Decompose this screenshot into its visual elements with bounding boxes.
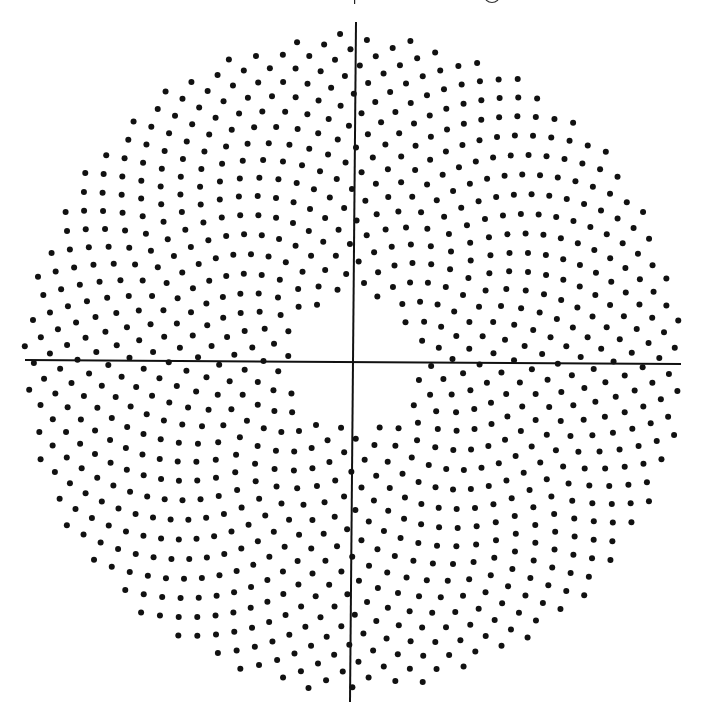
spiral-dot	[195, 441, 201, 447]
spiral-dot	[49, 250, 55, 256]
spiral-dot	[649, 315, 655, 321]
spiral-dot	[328, 85, 334, 91]
spiral-dot	[372, 99, 378, 105]
spiral-dot	[332, 57, 338, 63]
spiral-dot	[216, 362, 222, 368]
spiral-dot	[602, 379, 608, 385]
spiral-dot	[145, 573, 151, 579]
spiral-dot	[63, 429, 69, 435]
spiral-dot	[443, 106, 449, 112]
spiral-dot	[484, 380, 490, 386]
spiral-dot	[472, 649, 478, 655]
spiral-dot	[474, 523, 480, 529]
spiral-dot	[570, 402, 576, 408]
spiral-dot	[625, 482, 631, 488]
spiral-dot	[357, 63, 363, 69]
spiral-dot	[466, 576, 472, 582]
spiral-dot	[537, 310, 543, 316]
spiral-dot	[593, 270, 599, 276]
spiral-dot	[527, 487, 533, 493]
spiral-dot	[529, 191, 535, 197]
spiral-dot	[488, 572, 494, 578]
spiral-dot	[140, 431, 146, 437]
spiral-dot	[533, 617, 539, 623]
spiral-dot	[403, 81, 409, 87]
spiral-dot	[651, 289, 657, 295]
spiral-dot	[260, 157, 266, 163]
spiral-dot	[179, 422, 185, 428]
spiral-dot	[159, 594, 165, 600]
spiral-dot	[249, 625, 255, 631]
spiral-dot	[398, 179, 404, 185]
spiral-dot	[133, 511, 139, 517]
spiral-dot	[71, 264, 77, 270]
spiral-dot	[275, 368, 281, 374]
spiral-dot	[361, 280, 367, 286]
spiral-dot	[122, 228, 128, 234]
spiral-dot	[661, 329, 667, 335]
spiral-dot	[65, 303, 71, 309]
spiral-dot	[640, 461, 646, 467]
spiral-dot	[215, 72, 221, 78]
spiral-dot	[607, 302, 613, 308]
spiral-dot	[352, 612, 358, 618]
spiral-dot	[466, 346, 472, 352]
spiral-dot	[273, 124, 279, 130]
spiral-dot	[338, 425, 344, 431]
spiral-dot	[231, 629, 237, 635]
spiral-dot	[298, 668, 304, 674]
spiral-dot	[373, 53, 379, 59]
spiral-dot	[650, 262, 656, 268]
spiral-dot	[196, 595, 202, 601]
spiral-dot	[123, 445, 129, 451]
spiral-dot	[52, 469, 58, 475]
spiral-dot	[632, 387, 638, 393]
spiral-dot	[127, 569, 133, 575]
spiral-dot	[544, 476, 550, 482]
spiral-dot	[194, 614, 200, 620]
spiral-dot	[356, 259, 362, 265]
spiral-dot	[57, 366, 63, 372]
spiral-dot	[563, 343, 569, 349]
spiral-dot	[148, 248, 154, 254]
spiral-dot	[610, 430, 616, 436]
spiral-dot	[269, 93, 275, 99]
spiral-dot	[321, 531, 327, 537]
spiral-dot	[572, 178, 578, 184]
spiral-dot	[409, 260, 415, 266]
spiral-dot	[223, 233, 229, 239]
spiral-dot	[364, 599, 370, 605]
spiral-dot	[132, 262, 138, 268]
spiral-dot	[326, 582, 332, 588]
spiral-dot	[193, 459, 199, 465]
spiral-dot	[402, 494, 408, 500]
spiral-dot	[217, 196, 223, 202]
spiral-dot	[418, 209, 424, 215]
spiral-dot	[362, 198, 368, 204]
spiral-dot	[615, 174, 621, 180]
spiral-dot	[575, 240, 581, 246]
spiral-dot	[119, 192, 125, 198]
spiral-dot	[581, 592, 587, 598]
spiral-dot	[213, 632, 219, 638]
spiral-dot	[476, 304, 482, 310]
spiral-dot	[451, 308, 457, 314]
spiral-dot	[280, 568, 286, 574]
spiral-dot	[52, 391, 58, 397]
spiral-dot	[530, 133, 536, 139]
spiral-dot	[586, 483, 592, 489]
spiral-dot	[157, 456, 163, 462]
spiral-dot	[278, 501, 284, 507]
spiral-dot	[77, 441, 83, 447]
spiral-dot	[617, 336, 623, 342]
spiral-dot	[97, 279, 103, 285]
spiral-dot	[47, 310, 53, 316]
spiral-dot	[106, 522, 112, 528]
spiral-dot	[455, 525, 461, 531]
spiral-dot	[255, 402, 261, 408]
spiral-dot	[574, 304, 580, 310]
spiral-dot	[264, 599, 270, 605]
spiral-dot	[570, 120, 576, 126]
spiral-dot	[602, 465, 608, 471]
spiral-dot	[94, 405, 100, 411]
